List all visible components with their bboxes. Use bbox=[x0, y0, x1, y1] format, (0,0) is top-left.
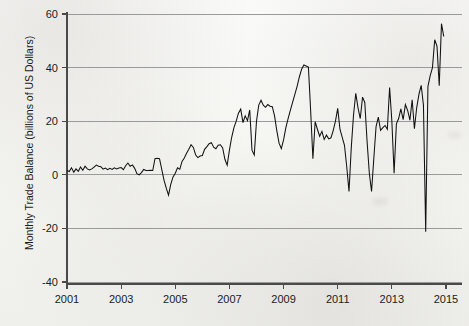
y-tick-label-0: 0 bbox=[52, 169, 58, 181]
x-tick-label-2015: 2015 bbox=[434, 293, 458, 305]
x-tick-label-2003: 2003 bbox=[109, 293, 133, 305]
gridlines-group bbox=[67, 14, 462, 282]
y-tick-label--20: -20 bbox=[42, 222, 58, 234]
chart-page: -40-200204060 20012003200520072009201120… bbox=[0, 0, 469, 326]
x-tick-label-2005: 2005 bbox=[163, 293, 187, 305]
y-tick-labels-group: -40-200204060 bbox=[42, 8, 58, 288]
y-axis-title: Monthly Trade Balance (billions of US Do… bbox=[23, 36, 35, 250]
y-tick-label--40: -40 bbox=[42, 276, 58, 288]
x-tick-label-2013: 2013 bbox=[380, 293, 404, 305]
y-tick-label-40: 40 bbox=[46, 62, 58, 74]
trade-balance-line-chart: -40-200204060 20012003200520072009201120… bbox=[0, 0, 469, 326]
x-tick-labels-group: 20012003200520072009201120132015 bbox=[55, 293, 458, 305]
x-tick-label-2007: 2007 bbox=[217, 293, 241, 305]
y-tick-label-20: 20 bbox=[46, 115, 58, 127]
x-tick-label-2009: 2009 bbox=[271, 293, 295, 305]
trade-balance-series-line bbox=[67, 24, 444, 232]
y-tick-label-60: 60 bbox=[46, 8, 58, 20]
x-tick-label-2011: 2011 bbox=[326, 293, 350, 305]
x-tick-label-2001: 2001 bbox=[55, 293, 79, 305]
